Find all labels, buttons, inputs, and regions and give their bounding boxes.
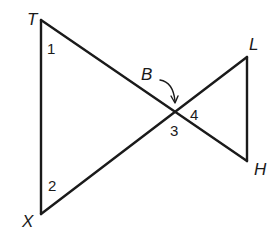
point-label-X: X — [21, 212, 34, 231]
point-label-L: L — [249, 35, 258, 54]
point-label-B: B — [141, 65, 152, 84]
angle-label-2: 2 — [48, 177, 56, 194]
point-label-T: T — [27, 10, 39, 29]
segment-TH — [41, 20, 247, 161]
point-label-H: H — [254, 160, 267, 179]
angle-label-4: 4 — [190, 106, 198, 123]
angle-label-1: 1 — [47, 40, 55, 57]
geometry-figure: T X B L H 1 2 3 4 — [0, 0, 275, 231]
angle-label-3: 3 — [170, 122, 178, 139]
